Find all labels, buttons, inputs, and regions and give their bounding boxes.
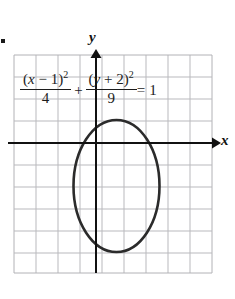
term-2-constant: 2	[116, 71, 124, 87]
equation-term-2: (y + 2)2 9	[86, 72, 137, 107]
x-axis	[8, 138, 221, 149]
term-2-exponent: 2	[129, 69, 134, 80]
term-1-operator: −	[35, 71, 51, 87]
term-1-denominator: 4	[39, 90, 53, 107]
equation-term-1: (x − 1)2 4	[20, 72, 71, 107]
equation-right-hand-side: 1	[145, 82, 157, 99]
ellipse-curve	[74, 120, 160, 252]
term-1-numerator: (x − 1)2	[20, 72, 71, 89]
term-1-exponent: 2	[63, 69, 68, 80]
y-axis-label: y	[89, 30, 96, 45]
ellipse-graph-figure: y x (x − 1)2 4 + (y + 2)2 9 = 1	[0, 0, 235, 299]
term-2-operator: +	[100, 71, 116, 87]
equation-plus-operator: +	[71, 82, 85, 99]
term-2-numerator: (y + 2)2	[86, 72, 137, 89]
graph-canvas	[0, 0, 235, 299]
equation-equals-sign: =	[137, 82, 145, 99]
x-axis-label: x	[221, 133, 229, 148]
term-2-denominator: 9	[104, 90, 118, 107]
ellipse-equation: (x − 1)2 4 + (y + 2)2 9 = 1	[20, 66, 205, 112]
term-1-variable: x	[28, 71, 35, 87]
list-bullet-marker	[1, 39, 5, 43]
